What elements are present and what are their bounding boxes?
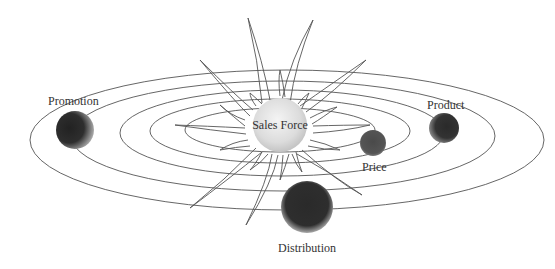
product-sphere bbox=[429, 113, 459, 143]
product-label: Product bbox=[427, 98, 465, 112]
distribution-sphere bbox=[281, 181, 333, 233]
planet-product: Product bbox=[427, 98, 465, 143]
price-sphere bbox=[360, 130, 386, 156]
planet-price: Price bbox=[360, 130, 387, 174]
marketing-mix-orbit-diagram: Sales Force Promotion Product Price Dist… bbox=[0, 0, 555, 269]
promotion-sphere bbox=[56, 111, 94, 149]
center-label: Sales Force bbox=[252, 118, 308, 132]
price-label: Price bbox=[362, 160, 387, 174]
distribution-label: Distribution bbox=[278, 241, 336, 255]
promotion-label: Promotion bbox=[48, 94, 99, 108]
center-sales-force: Sales Force bbox=[252, 98, 308, 152]
planet-promotion: Promotion bbox=[48, 94, 99, 149]
planet-distribution: Distribution bbox=[278, 181, 336, 255]
